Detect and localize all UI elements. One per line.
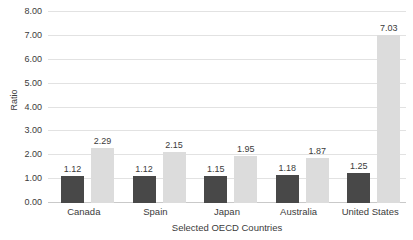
bar-fill [306, 158, 329, 203]
y-axis-tick-label: 1.00 [24, 174, 42, 183]
x-axis-tick-label: Spain [120, 206, 192, 217]
bar-fill [61, 176, 84, 203]
bar[interactable]: 1.18 [276, 175, 299, 203]
bar[interactable]: 1.15 [204, 176, 227, 203]
y-axis-tick-label: 0.00 [24, 198, 42, 207]
bar-fill [377, 35, 400, 203]
bar-group: 1.151.95 [191, 12, 263, 203]
bar-group: 1.122.15 [120, 12, 192, 203]
bar[interactable]: 1.25 [347, 173, 370, 203]
plot-area: 0.001.002.003.004.005.006.007.008.00 1.1… [48, 12, 406, 203]
bar[interactable]: 1.95 [234, 156, 257, 203]
bar[interactable]: 2.29 [91, 148, 114, 203]
bar-fill [347, 173, 370, 203]
bar-fill [234, 156, 257, 203]
bar-value-label: 1.12 [64, 165, 82, 174]
y-axis-tick-label: 2.00 [24, 150, 42, 159]
x-axis-tick-label: Japan [191, 206, 263, 217]
bar-groups: 1.122.291.122.151.151.951.181.871.257.03 [48, 12, 406, 203]
bar-value-label: 1.87 [309, 147, 327, 156]
bar-chart: Ratio 0.001.002.003.004.005.006.007.008.… [0, 0, 413, 240]
x-axis-title: Selected OECD Countries [48, 222, 406, 233]
bar-value-label: 1.12 [135, 165, 153, 174]
y-axis-title: Ratio [9, 70, 19, 130]
y-axis-tick-label: 7.00 [24, 30, 42, 39]
x-axis-tick-label: Australia [263, 206, 335, 217]
y-axis-tick-label: 6.00 [24, 54, 42, 63]
bar-value-label: 1.15 [207, 165, 225, 174]
x-axis-tick-label: United States [334, 206, 406, 217]
bar[interactable]: 1.12 [61, 176, 84, 203]
bar-fill [133, 176, 156, 203]
bar-value-label: 1.95 [237, 145, 255, 154]
bar[interactable]: 2.15 [163, 152, 186, 203]
y-axis-tick-label: 5.00 [24, 78, 42, 87]
bar-group: 1.181.87 [263, 12, 335, 203]
bar[interactable]: 7.03 [377, 35, 400, 203]
bar-value-label: 1.18 [279, 164, 297, 173]
bar-fill [204, 176, 227, 203]
x-axis-tick-labels: CanadaSpainJapanAustraliaUnited States [48, 206, 406, 217]
bar-value-label: 2.29 [94, 137, 112, 146]
bar-group: 1.257.03 [334, 12, 406, 203]
bar-value-label: 1.25 [350, 162, 368, 171]
bar-fill [91, 148, 114, 203]
x-axis-tick-label: Canada [48, 206, 120, 217]
y-axis-tick-label: 3.00 [24, 126, 42, 135]
bar[interactable]: 1.12 [133, 176, 156, 203]
bar-fill [163, 152, 186, 203]
bar-value-label: 7.03 [380, 24, 398, 33]
y-axis-tick-label: 8.00 [24, 7, 42, 16]
bar[interactable]: 1.87 [306, 158, 329, 203]
bar-value-label: 2.15 [165, 141, 183, 150]
bar-fill [276, 175, 299, 203]
bar-group: 1.122.29 [48, 12, 120, 203]
y-axis-tick-label: 4.00 [24, 102, 42, 111]
